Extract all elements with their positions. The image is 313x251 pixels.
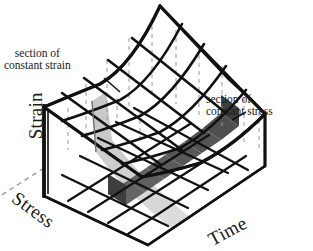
callout-constant-stress-line2: constant stress — [206, 106, 273, 118]
callout-constant-strain: section of constant strain — [4, 48, 71, 71]
callout-constant-stress-line1: section of — [206, 94, 273, 106]
callout-constant-strain-line2: constant strain — [4, 60, 71, 72]
figure-canvas: section of constant strain section of co… — [0, 0, 313, 251]
axis-label-strain: Strain — [26, 76, 45, 156]
callout-constant-strain-line1: section of — [4, 48, 71, 60]
callout-constant-stress: section of constant stress — [206, 94, 273, 117]
surface-grid-time — [44, 6, 265, 177]
surface-grid-stress — [44, 6, 265, 177]
